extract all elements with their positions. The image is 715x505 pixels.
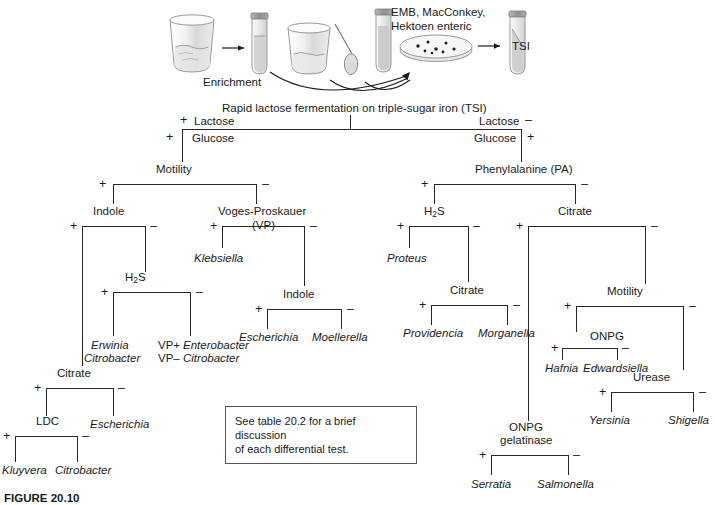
media-label-line2: Hektoen enteric	[391, 20, 472, 32]
citrate-r2-minus: –	[651, 220, 658, 232]
urease-label: Urease	[633, 371, 670, 383]
h2s-right-bracket	[409, 226, 469, 227]
citrate-left-plus-branch	[46, 388, 47, 416]
organism-erwinia: Erwinia	[91, 339, 129, 352]
inoculating-loop-icon	[335, 24, 358, 75]
note-box: See table 20.2 for a brief discussion of…	[225, 406, 417, 464]
h2s-label-left: H2S	[125, 271, 146, 286]
organism-providencia: Providencia	[403, 327, 463, 340]
glucose-plus-left: +	[166, 131, 173, 143]
organism-escherichia-indole: Escherichia	[239, 331, 298, 344]
organism-hafnia: Hafnia	[545, 362, 578, 375]
lactose-label-right: Lactose	[479, 115, 519, 127]
onpg-gel-bracket	[491, 455, 569, 456]
onpg-gel-plus: +	[479, 449, 486, 461]
organism-klebsiella: Klebsiella	[194, 252, 243, 265]
h2s-right-minus: –	[473, 220, 480, 232]
vp-plus: +	[210, 220, 217, 232]
h2s-left-bracket	[113, 292, 191, 293]
organism-morganella: Morganella	[478, 327, 535, 340]
onpg-bracket	[562, 348, 618, 349]
figure-caption: FIGURE 20.10	[4, 492, 79, 504]
motility-left-plus: +	[99, 178, 106, 190]
vp-label: Voges-Proskauer	[218, 205, 306, 217]
pa-plus: +	[421, 178, 428, 190]
indole-vp-minus: –	[347, 303, 354, 315]
citrate-left-minus: –	[118, 382, 125, 394]
citrate-label-r1: Citrate	[450, 284, 484, 296]
citrate-r2-minus-branch	[645, 226, 646, 284]
citrate-r2-bracket	[528, 226, 646, 227]
indole-left-minus: –	[150, 220, 157, 232]
citrate-r1-bracket	[431, 305, 508, 306]
pa-plus-branch	[434, 184, 435, 204]
vp-plus-prefix: VP+	[158, 339, 180, 352]
motility-right-minus-branch	[683, 306, 684, 370]
pa-minus: –	[581, 178, 588, 190]
onpg-label: ONPG	[590, 330, 624, 342]
urease-minus-branch	[693, 392, 694, 412]
root-bracket	[182, 129, 522, 130]
motility-label-left: Motility	[156, 163, 192, 175]
glucose-plus-right: +	[527, 131, 534, 143]
indole-vp-plus-branch	[267, 309, 268, 329]
h2s-left-minus: –	[196, 286, 203, 298]
arrow-icon	[478, 43, 500, 49]
organism-citrobacter-vpminus: Citrobacter	[183, 352, 239, 365]
h2s-label-right: H2S	[424, 205, 445, 220]
organism-moellerella: Moellerella	[312, 331, 368, 344]
h2s-left-plus: +	[101, 286, 108, 298]
h2s-left-plus-branch	[113, 292, 114, 336]
pa-minus-branch	[575, 184, 576, 204]
vp-minus-branch	[304, 226, 305, 286]
motility-right-plus-branch	[576, 306, 577, 332]
motility-right-minus: –	[689, 300, 696, 312]
onpg-plus: +	[551, 342, 558, 354]
urease-minus: –	[699, 386, 706, 398]
ldc-bracket	[15, 436, 78, 437]
citrate-r1-minus-branch	[507, 305, 508, 325]
indole-left-plus-branch	[82, 226, 83, 366]
motility-right-plus: +	[564, 300, 571, 312]
organism-kluyvera: Kluyvera	[2, 464, 47, 477]
vp-minus: –	[310, 220, 317, 232]
citrate-r1-plus: +	[419, 299, 426, 311]
glucose-label-right: Glucose	[474, 132, 516, 144]
citrate-r2-plus-branch	[528, 226, 529, 421]
onpg-minus: –	[622, 342, 629, 354]
lactose-plus-sign: +	[180, 114, 187, 126]
arrow-icon	[222, 45, 244, 51]
root-branch-right	[521, 129, 522, 162]
motility-left-minus: –	[262, 178, 269, 190]
ldc-plus-branch	[15, 436, 16, 462]
onpg-gel-minus: –	[573, 449, 580, 461]
ldc-minus-branch	[77, 436, 78, 462]
media-label-line1: EMB, MacConkey,	[391, 6, 485, 18]
indole-vp-minus-branch	[341, 309, 342, 329]
tsi-label: TSI	[512, 40, 530, 52]
citrate-left-plus: +	[34, 382, 41, 394]
root-branch-left	[182, 129, 183, 162]
organism-proteus: Proteus	[387, 252, 427, 265]
root-stem	[350, 115, 351, 129]
broth-tube-icon	[375, 9, 392, 72]
indole-left-minus-branch	[145, 226, 146, 272]
indole-vp-plus: +	[255, 303, 262, 315]
indole-left-bracket	[82, 226, 146, 227]
indole-label-vp: Indole	[283, 288, 314, 300]
urease-plus: +	[599, 386, 606, 398]
urease-plus-branch	[611, 392, 612, 412]
streak-arrows-icon	[270, 72, 410, 91]
lactose-minus-sign: –	[525, 114, 532, 126]
ldc-minus: –	[82, 430, 89, 442]
glucose-label-left: Glucose	[192, 132, 234, 144]
motility-left-plus-branch	[113, 184, 114, 204]
organism-escherichia-citrate: Escherichia	[90, 418, 149, 431]
pa-bracket	[434, 184, 576, 185]
urease-bracket	[611, 392, 694, 393]
lactose-label-left: Lactose	[194, 115, 234, 127]
organism-citrobacter-ldc: Citrobacter	[55, 464, 111, 477]
note-line1: See table 20.2 for a brief discussion	[235, 414, 407, 442]
indole-left-plus: +	[70, 220, 77, 232]
vp-minus-prefix: VP–	[158, 352, 180, 365]
